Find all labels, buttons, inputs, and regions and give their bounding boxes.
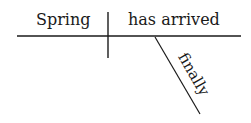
- sentence-diagram: Spring has arrived finally: [0, 0, 251, 123]
- predicate-word: has arrived: [128, 12, 220, 28]
- subject-word: Spring: [36, 12, 91, 28]
